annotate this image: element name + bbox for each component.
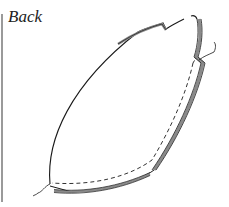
seam-band-bottom bbox=[54, 174, 150, 192]
outline-top-right-tick bbox=[191, 16, 197, 19]
seam-band-top bbox=[118, 24, 166, 44]
pattern-piece-drawing bbox=[0, 0, 229, 207]
corner-thread bbox=[33, 184, 50, 196]
outline-left-curve bbox=[50, 32, 138, 184]
stitch-line-dashed bbox=[52, 63, 193, 184]
pattern-diagram: Back bbox=[0, 0, 229, 207]
